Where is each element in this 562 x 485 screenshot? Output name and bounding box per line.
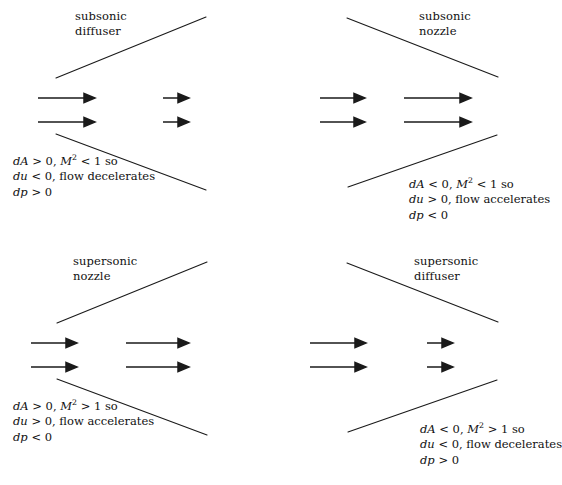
- caption-dA-relation: > 0,: [32, 399, 56, 413]
- panel-title-line2: diffuser: [75, 24, 127, 39]
- caption-du-relation: > 0,: [31, 414, 55, 428]
- caption-line-1: dA < 0, M2 > 1 so: [420, 418, 562, 437]
- panel-title-line2: diffuser: [414, 269, 478, 284]
- caption-dp-symbol: dp: [420, 453, 435, 467]
- outlet-arrow-head-1: [178, 338, 189, 347]
- caption-line-2: du < 0, flow decelerates: [420, 437, 562, 453]
- panel-title-line1: supersonic: [414, 254, 478, 268]
- caption-line-3: dp > 0: [420, 453, 562, 469]
- outlet-arrow-head-2: [442, 362, 453, 371]
- caption-du-relation: > 0,: [427, 192, 451, 206]
- caption-line-3: dp < 0: [409, 208, 550, 224]
- panel-caption: dA > 0, M2 < 1 so du < 0, flow decelerat…: [13, 150, 155, 200]
- caption-dp-relation: < 0: [427, 208, 448, 222]
- caption-flow-text: flow accelerates: [59, 414, 154, 428]
- inlet-arrow-head-2: [355, 362, 366, 371]
- caption-M-relation: > 1 so: [81, 399, 118, 413]
- inlet-arrow-head-1: [66, 338, 77, 347]
- outlet-arrow-head-2: [178, 117, 189, 126]
- caption-M-relation: > 1 so: [488, 422, 525, 436]
- caption-M-symbol: M: [60, 399, 72, 413]
- caption-flow-text: flow decelerates: [466, 437, 562, 451]
- caption-line-3: dp > 0: [13, 185, 155, 201]
- inlet-arrow-head-2: [84, 117, 95, 126]
- caption-line-1: dA > 0, M2 < 1 so: [13, 150, 155, 169]
- inlet-arrow-head-1: [354, 93, 365, 102]
- panel-title: supersonic diffuser: [414, 254, 478, 284]
- caption-flow-text: flow decelerates: [59, 169, 155, 183]
- outlet-arrow-head-2: [178, 362, 189, 371]
- panel-caption: dA > 0, M2 > 1 so du > 0, flow accelerat…: [13, 395, 154, 445]
- caption-dA-relation: < 0,: [428, 177, 452, 191]
- panel-title-line1: supersonic: [73, 254, 137, 268]
- caption-dA-symbol: dA: [13, 154, 29, 168]
- panel-subsonic-diffuser-graphic: [0, 0, 276, 243]
- caption-line-2: du > 0, flow accelerates: [409, 192, 550, 208]
- caption-flow-text: flow accelerates: [455, 192, 550, 206]
- panel-title-line1: subsonic: [75, 9, 127, 23]
- caption-du-relation: < 0,: [438, 437, 462, 451]
- caption-M-symbol: M: [467, 422, 479, 436]
- caption-dA-symbol: dA: [409, 177, 425, 191]
- caption-dA-symbol: dA: [13, 399, 29, 413]
- caption-M-exponent: 2: [72, 153, 77, 162]
- outlet-arrow-head-1: [442, 338, 453, 347]
- caption-line-3: dp < 0: [13, 430, 154, 446]
- panel-subsonic-nozzle: subsonic nozzle dA < 0, M2 < 1 so du > 0…: [276, 0, 552, 242]
- panel-supersonic-diffuser: supersonic diffuser dA < 0, M2 > 1 so du…: [276, 243, 552, 485]
- caption-M-relation: < 1 so: [81, 154, 118, 168]
- caption-M-symbol: M: [456, 177, 468, 191]
- caption-dp-relation: > 0: [31, 185, 52, 199]
- panel-title: subsonic diffuser: [75, 9, 127, 39]
- panel-title-line2: nozzle: [419, 24, 471, 39]
- caption-dp-relation: < 0: [31, 430, 52, 444]
- caption-dA-symbol: dA: [420, 422, 436, 436]
- caption-dA-relation: < 0,: [439, 422, 463, 436]
- caption-du-symbol: du: [409, 192, 424, 206]
- caption-M-exponent: 2: [468, 176, 473, 185]
- caption-line-1: dA < 0, M2 < 1 so: [409, 173, 550, 192]
- caption-M-relation: < 1 so: [477, 177, 514, 191]
- caption-line-2: du < 0, flow decelerates: [13, 169, 155, 185]
- panel-title-line2: nozzle: [73, 269, 137, 284]
- caption-M-exponent: 2: [72, 398, 77, 407]
- outlet-arrow-head-1: [460, 93, 471, 102]
- inlet-arrow-head-2: [354, 117, 365, 126]
- caption-line-1: dA > 0, M2 > 1 so: [13, 395, 154, 414]
- caption-dp-symbol: dp: [13, 185, 28, 199]
- panel-title: supersonic nozzle: [73, 254, 137, 284]
- caption-dp-relation: > 0: [438, 453, 459, 467]
- caption-du-relation: < 0,: [31, 169, 55, 183]
- inlet-arrow-head-2: [66, 362, 77, 371]
- panel-supersonic-nozzle: supersonic nozzle dA > 0, M2 > 1 so du >…: [0, 243, 276, 485]
- panel-caption: dA < 0, M2 < 1 so du > 0, flow accelerat…: [409, 173, 550, 223]
- inlet-arrow-head-1: [84, 93, 95, 102]
- caption-du-symbol: du: [13, 169, 28, 183]
- outlet-arrow-head-2: [460, 117, 471, 126]
- caption-dA-relation: > 0,: [32, 154, 56, 168]
- panel-subsonic-diffuser: subsonic diffuser dA > 0, M2 < 1 so du <…: [0, 0, 276, 242]
- caption-dp-symbol: dp: [13, 430, 28, 444]
- caption-line-2: du > 0, flow accelerates: [13, 414, 154, 430]
- panel-title: subsonic nozzle: [419, 9, 471, 39]
- panel-title-line1: subsonic: [419, 9, 471, 23]
- caption-dp-symbol: dp: [409, 208, 424, 222]
- caption-M-exponent: 2: [479, 421, 484, 430]
- panel-caption: dA < 0, M2 > 1 so du < 0, flow decelerat…: [420, 418, 562, 468]
- panel-supersonic-nozzle-graphic: [0, 243, 276, 485]
- caption-du-symbol: du: [420, 437, 435, 451]
- inlet-arrow-head-1: [355, 338, 366, 347]
- caption-du-symbol: du: [13, 414, 28, 428]
- outlet-arrow-head-1: [178, 93, 189, 102]
- caption-M-symbol: M: [60, 154, 72, 168]
